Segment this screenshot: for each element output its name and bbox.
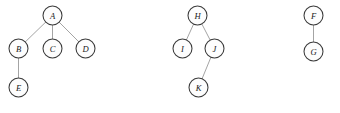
edge-J-K — [202, 57, 211, 78]
node-label-F: F — [310, 11, 317, 21]
edge-H-J — [202, 24, 210, 40]
node-J[interactable]: J — [205, 39, 224, 58]
node-F[interactable]: F — [304, 6, 323, 25]
edges-layer — [19, 22, 314, 79]
node-H[interactable]: H — [188, 6, 207, 25]
node-label-E: E — [15, 83, 22, 93]
node-B[interactable]: B — [9, 39, 28, 58]
diagram-canvas: ABCDEHIJKFG — [0, 0, 340, 113]
node-label-A: A — [49, 11, 56, 21]
node-label-D: D — [81, 44, 89, 54]
node-A[interactable]: A — [43, 6, 62, 25]
nodes-layer: ABCDEHIJKFG — [9, 6, 323, 97]
graph-svg: ABCDEHIJKFG — [0, 0, 340, 113]
node-K[interactable]: K — [189, 78, 208, 97]
node-label-H: H — [193, 11, 201, 21]
node-G[interactable]: G — [304, 42, 323, 61]
node-I[interactable]: I — [173, 39, 192, 58]
tree-2-nodes: HIJK — [173, 6, 224, 97]
node-E[interactable]: E — [9, 78, 28, 97]
node-label-C: C — [50, 44, 56, 54]
edge-A-D — [59, 22, 79, 42]
node-D[interactable]: D — [76, 39, 95, 58]
node-label-B: B — [16, 44, 22, 54]
edge-H-I — [186, 24, 193, 40]
node-label-G: G — [310, 47, 317, 57]
node-C[interactable]: C — [43, 39, 62, 58]
edge-A-B — [25, 22, 45, 42]
tree-1-nodes: ABCDE — [9, 6, 95, 97]
